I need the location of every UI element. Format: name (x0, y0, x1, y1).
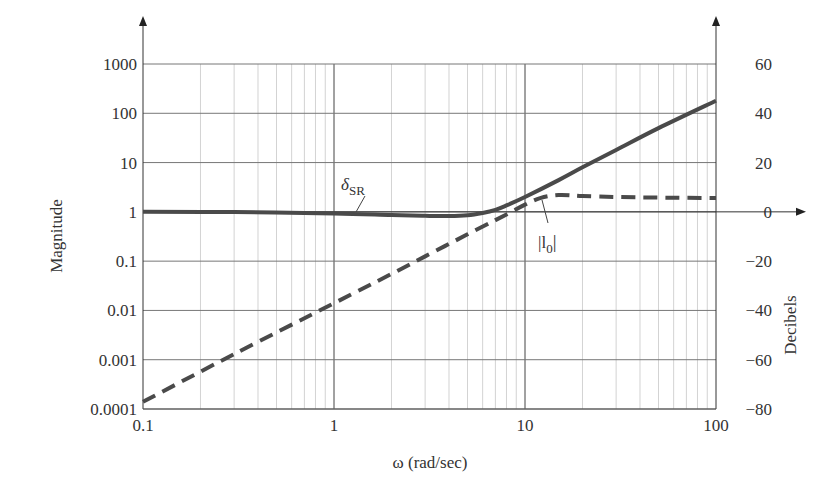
y2-tick-label: −40 (745, 301, 772, 320)
l0-label: |l0| (538, 231, 556, 256)
x-axis-label: ω (rad/sec) (393, 453, 468, 472)
y2-tick-label: 60 (755, 55, 772, 74)
y2-axis-label: Decibels (781, 295, 800, 354)
y-tick-label: 100 (112, 104, 138, 123)
x-tick-label: 10 (517, 416, 534, 435)
y-axis-label: Magnitude (47, 199, 66, 273)
delta-sr-label: δSR (341, 175, 365, 198)
x-tick-label: 100 (703, 416, 729, 435)
zero-db-axis-arrow-icon (796, 208, 806, 216)
y-tick-label: 10 (120, 154, 137, 173)
series-lines (143, 101, 716, 402)
y-tick-label: 0.001 (99, 351, 137, 370)
x-tick-label: 1 (330, 416, 339, 435)
y-tick-label: 0.01 (107, 301, 137, 320)
y2-tick-label: 0 (764, 203, 773, 222)
bode-magnitude-chart: 0.11101000.00010.0010.010.11101001000−80… (0, 0, 833, 493)
delta-sr-subscript: SR (349, 183, 365, 198)
y-tick-label: 1000 (103, 55, 137, 74)
l0-label-end: | (553, 231, 557, 252)
y2-tick-label: −60 (745, 351, 772, 370)
y2-tick-label: 20 (755, 154, 772, 173)
y2-tick-label: 40 (755, 104, 772, 123)
y2-tick-label: −20 (745, 252, 772, 271)
y-tick-label: 1 (129, 203, 138, 222)
left-axis-arrow-icon (139, 16, 147, 26)
right-axis-arrow-icon (712, 16, 720, 26)
delta-sr-leader (356, 196, 365, 212)
axis-labels: ω (rad/sec) Magnitude Decibels (47, 199, 800, 472)
y-tick-label: 0.1 (116, 252, 137, 271)
y2-tick-label: −80 (745, 400, 772, 419)
series-l0-line (143, 195, 716, 402)
minor-gridlines (200, 64, 707, 409)
y-tick-label: 0.0001 (90, 400, 137, 419)
